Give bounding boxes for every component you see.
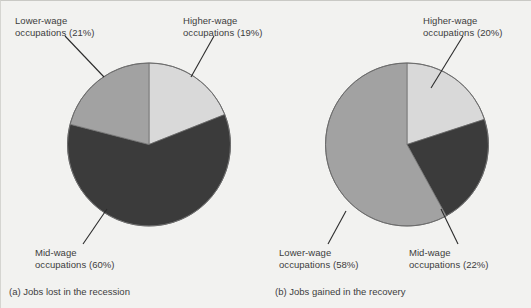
leader-line-lower-b [328, 211, 346, 244]
callout-line-1: Lower-wage [279, 247, 359, 259]
leader-line-lower-a [65, 36, 104, 77]
callout-line-2: occupations (19%) [183, 27, 263, 39]
pie-panel-a: Higher-wage occupations (19%)Mid-wage oc… [1, 1, 266, 308]
pie-panel-b: Higher-wage occupations (20%)Mid-wage oc… [266, 1, 531, 308]
panel-caption-a: (a) Jobs lost in the recession [9, 286, 130, 298]
leader-line-higher-a [191, 36, 214, 77]
callout-higher-wage-a: Higher-wage occupations (19%) [183, 15, 263, 38]
callout-line-2: occupations (58%) [279, 259, 359, 271]
callout-line-2: occupations (20%) [423, 27, 503, 39]
callout-line-1: Higher-wage [423, 15, 503, 27]
callout-line-1: Higher-wage [183, 15, 263, 27]
callout-line-2: occupations (21%) [15, 27, 95, 39]
callout-line-1: Lower-wage [15, 15, 95, 27]
panel-caption-b: (b) Jobs gained in the recovery [275, 286, 405, 298]
figure-container: Higher-wage occupations (19%)Mid-wage oc… [0, 0, 531, 308]
callout-lower-wage-a: Lower-wage occupations (21%) [15, 15, 95, 38]
callout-line-2: occupations (22%) [409, 259, 489, 271]
callout-mid-wage-b: Mid-wage occupations (22%) [409, 247, 489, 270]
callout-line-1: Mid-wage [409, 247, 489, 259]
callout-mid-wage-a: Mid-wage occupations (60%) [35, 247, 115, 270]
callout-higher-wage-b: Higher-wage occupations (20%) [423, 15, 503, 38]
callout-line-2: occupations (60%) [35, 259, 115, 271]
leader-line-mid-a [83, 209, 107, 244]
callout-lower-wage-b: Lower-wage occupations (58%) [279, 247, 359, 270]
callout-line-1: Mid-wage [35, 247, 115, 259]
